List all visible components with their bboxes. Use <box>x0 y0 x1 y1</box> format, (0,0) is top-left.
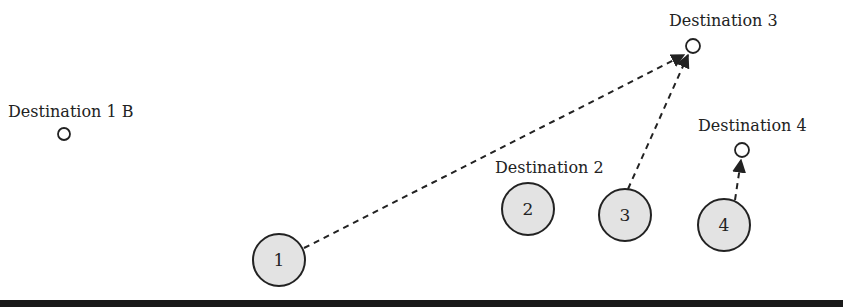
dest-2-label: Destination 2 <box>495 158 604 177</box>
agent-2-node: 2 <box>502 183 554 235</box>
bottom-border-bar <box>0 300 843 307</box>
path-arrow-agent-4-to-dest-4 <box>735 160 741 200</box>
agent-1-node: 1 <box>253 234 305 286</box>
agents-layer: 1234 <box>253 183 750 286</box>
dest-1b-marker <box>58 128 70 140</box>
dest-3-marker <box>686 39 700 53</box>
destination-diagram: 1234 Destination 1 BDestination 2Destina… <box>0 0 843 307</box>
agent-4-label: 4 <box>719 215 730 235</box>
path-arrow-agent-3-to-dest-3 <box>628 55 688 189</box>
dest-1b-node: Destination 1 B <box>8 102 134 140</box>
dest-3-label: Destination 3 <box>669 11 778 30</box>
dest-3-node: Destination 3 <box>669 11 778 53</box>
agent-1-label: 1 <box>274 250 285 270</box>
diagram-canvas: 1234 Destination 1 BDestination 2Destina… <box>0 0 843 307</box>
dest-4-marker <box>735 143 749 157</box>
dest-1b-label: Destination 1 B <box>8 102 134 121</box>
agent-2-label: 2 <box>523 199 534 219</box>
dest-2-node: Destination 2 <box>495 158 604 177</box>
destinations-layer: Destination 1 BDestination 2Destination … <box>8 11 807 177</box>
dest-4-label: Destination 4 <box>698 116 807 135</box>
agent-3-label: 3 <box>620 205 631 225</box>
agent-4-node: 4 <box>698 199 750 251</box>
dest-4-node: Destination 4 <box>698 116 807 157</box>
agent-3-node: 3 <box>599 189 651 241</box>
